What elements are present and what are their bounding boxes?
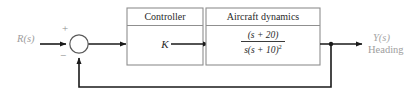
denominator-base: s(s + 10) — [244, 45, 278, 55]
output-signal-sublabel: Heading — [368, 44, 404, 55]
plant-transfer-function: (s + 20) s(s + 10)2 — [209, 30, 317, 55]
controller-block-title: Controller — [130, 11, 200, 22]
transfer-function-denominator: s(s + 10)2 — [241, 42, 285, 55]
transfer-function-fraction: (s + 20) s(s + 10)2 — [241, 30, 285, 55]
controller-gain-label: K — [130, 38, 200, 50]
block-diagram-canvas: R(s) + − Controller K Aircraft dynamics … — [0, 0, 418, 100]
input-signal-label: R(s) — [17, 33, 35, 44]
summing-junction-minus-sign: − — [60, 50, 66, 62]
output-signal-label: Y(s) — [373, 32, 390, 43]
plant-block-title: Aircraft dynamics — [209, 11, 317, 22]
summing-junction-circle — [70, 35, 88, 53]
summing-junction-plus-sign: + — [62, 23, 68, 35]
denominator-exponent: 2 — [279, 43, 282, 50]
transfer-function-numerator: (s + 20) — [241, 30, 285, 42]
